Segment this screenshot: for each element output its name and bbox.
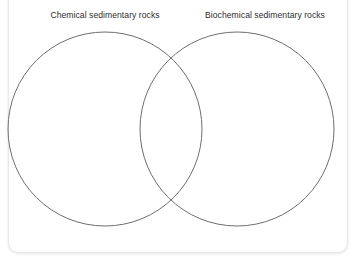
venn-circle-left[interactable]: [8, 32, 202, 226]
venn-circles-svg: [0, 0, 364, 275]
venn-circle-right[interactable]: [140, 32, 334, 226]
venn-diagram: Chemical sedimentary rocks Biochemical s…: [0, 0, 364, 275]
venn-diagram-page: Chemical sedimentary rocks Biochemical s…: [0, 0, 364, 275]
